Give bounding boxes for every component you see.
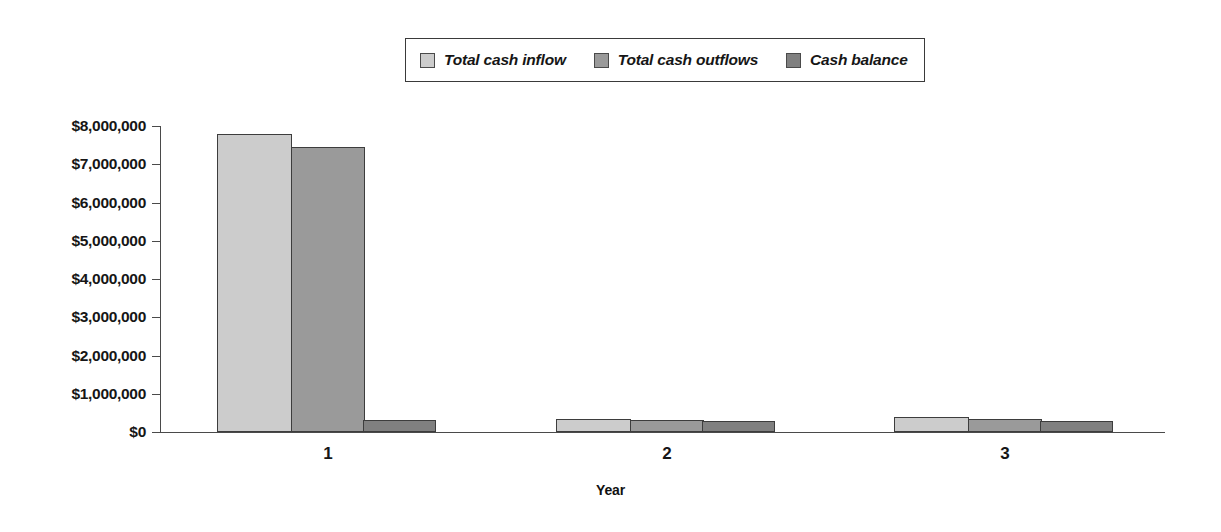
bar-total-cash-inflow-year-2: [556, 419, 631, 432]
bar-cash-balance-year-1: [363, 420, 436, 432]
y-axis-tick-label: $5,000,000: [26, 232, 146, 250]
plot-area: [160, 126, 1165, 432]
legend-swatch-icon-total-cash-inflow: [420, 53, 435, 68]
bar-total-cash-outflows-year-2: [630, 420, 704, 432]
y-axis-tick-label: $6,000,000: [26, 194, 146, 212]
bar-cash-balance-year-2: [702, 421, 775, 432]
x-axis-label-year-3: 3: [945, 444, 1065, 464]
y-axis-tick-label: $3,000,000: [26, 308, 146, 326]
bar-total-cash-outflows-year-1: [291, 147, 365, 432]
legend-swatch-icon-cash-balance: [786, 53, 801, 68]
bar-total-cash-inflow-year-1: [217, 134, 292, 432]
y-axis-tick-label: $7,000,000: [26, 155, 146, 173]
legend-label-total-cash-outflows: Total cash outflows: [618, 51, 758, 69]
bar-total-cash-outflows-year-3: [968, 419, 1042, 432]
y-axis-tick-label: $1,000,000: [26, 385, 146, 403]
legend-item-cash-balance: Cash balance: [786, 51, 908, 69]
cash-flow-bar-chart: Total cash inflow Total cash outflows Ca…: [0, 0, 1221, 532]
x-axis-label-year-2: 2: [607, 444, 727, 464]
x-axis-title: Year: [0, 482, 1221, 498]
legend-item-total-cash-outflows: Total cash outflows: [594, 51, 758, 69]
y-axis-tick: [152, 432, 161, 433]
legend-item-total-cash-inflow: Total cash inflow: [420, 51, 566, 69]
y-axis-tick-label: $4,000,000: [26, 270, 146, 288]
y-axis-tick-label: $0: [26, 423, 146, 441]
x-axis-line: [160, 432, 1165, 433]
x-axis-label-year-1: 1: [268, 444, 388, 464]
y-axis-tick-label: $2,000,000: [26, 347, 146, 365]
chart-legend: Total cash inflow Total cash outflows Ca…: [405, 38, 925, 82]
bar-total-cash-inflow-year-3: [894, 417, 969, 432]
legend-label-cash-balance: Cash balance: [810, 51, 908, 69]
legend-label-total-cash-inflow: Total cash inflow: [444, 51, 566, 69]
legend-swatch-icon-total-cash-outflows: [594, 53, 609, 68]
bar-cash-balance-year-3: [1040, 421, 1113, 432]
y-axis-tick-label: $8,000,000: [26, 117, 146, 135]
